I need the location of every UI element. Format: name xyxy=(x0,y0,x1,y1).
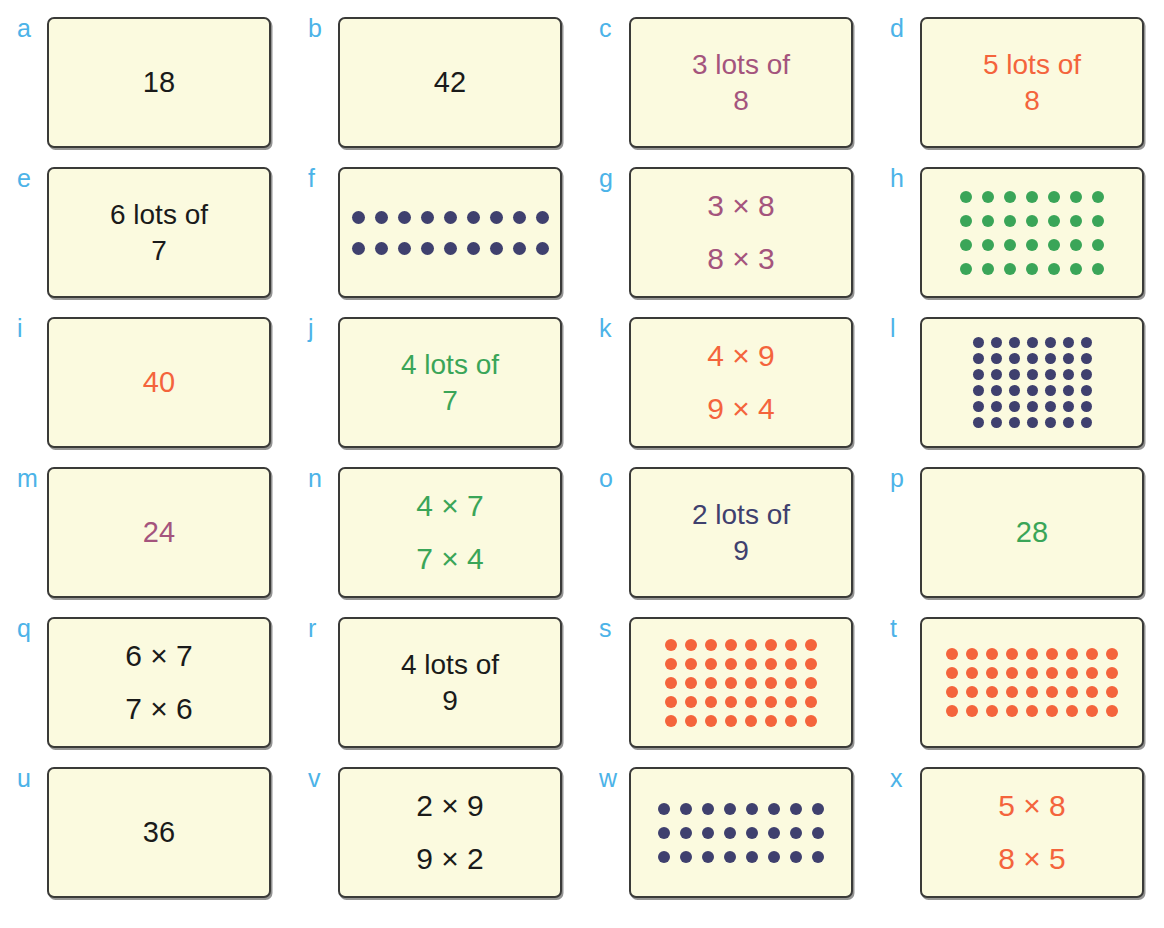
dot-icon xyxy=(1066,648,1078,660)
dot-icon xyxy=(1006,686,1018,698)
card-text-k: 4 × 9 9 × 4 xyxy=(707,330,775,435)
dot-icon xyxy=(1066,667,1078,679)
dot-icon xyxy=(1026,263,1038,275)
card-f[interactable] xyxy=(338,167,562,298)
dot-icon xyxy=(765,677,777,689)
dot-icon xyxy=(1026,648,1038,660)
card-s[interactable] xyxy=(629,617,853,748)
card-l[interactable] xyxy=(920,317,1144,448)
dot-icon xyxy=(960,239,972,251)
dot-icon xyxy=(785,658,797,670)
worksheet-sheet: a18b42c3 lots of 8d5 lots of 8e6 lots of… xyxy=(0,0,1164,928)
dot-icon xyxy=(745,639,757,651)
card-c[interactable]: 3 lots of 8 xyxy=(629,17,853,148)
card-text-g: 3 × 8 8 × 3 xyxy=(707,180,775,285)
card-e[interactable]: 6 lots of 7 xyxy=(47,167,271,298)
dot-icon xyxy=(768,851,780,863)
dot-icon xyxy=(1070,191,1082,203)
dot-icon xyxy=(785,639,797,651)
card-h[interactable] xyxy=(920,167,1144,298)
card-o[interactable]: 2 lots of 9 xyxy=(629,467,853,598)
card-cell-i: i40 xyxy=(0,310,291,460)
card-t[interactable] xyxy=(920,617,1144,748)
card-text-i: 40 xyxy=(143,364,175,401)
dot-icon xyxy=(805,696,817,708)
dot-row xyxy=(653,851,829,863)
dot-icon xyxy=(1092,215,1104,227)
card-a[interactable]: 18 xyxy=(47,17,271,148)
card-b[interactable]: 42 xyxy=(338,17,562,148)
card-v[interactable]: 2 × 9 9 × 2 xyxy=(338,767,562,898)
dot-icon xyxy=(1046,648,1058,660)
dot-icon xyxy=(946,705,958,717)
dot-icon xyxy=(702,827,714,839)
card-g[interactable]: 3 × 8 8 × 3 xyxy=(629,167,853,298)
dot-icon xyxy=(1026,191,1038,203)
card-q[interactable]: 6 × 7 7 × 6 xyxy=(47,617,271,748)
dot-icon xyxy=(1027,369,1038,380)
card-w[interactable] xyxy=(629,767,853,898)
dot-icon xyxy=(1092,191,1104,203)
card-i[interactable]: 40 xyxy=(47,317,271,448)
card-text-p: 28 xyxy=(1016,514,1048,551)
dot-icon xyxy=(946,667,958,679)
dot-icon xyxy=(986,705,998,717)
dot-row xyxy=(347,242,554,255)
dot-icon xyxy=(765,696,777,708)
dot-icon xyxy=(665,715,677,727)
dot-array-s xyxy=(661,635,821,730)
dot-row xyxy=(955,191,1109,203)
card-m[interactable]: 24 xyxy=(47,467,271,598)
dot-icon xyxy=(1106,705,1118,717)
dot-icon xyxy=(1004,191,1016,203)
card-d[interactable]: 5 lots of 8 xyxy=(920,17,1144,148)
dot-icon xyxy=(1081,353,1092,364)
dot-icon xyxy=(1063,337,1074,348)
dot-icon xyxy=(685,658,697,670)
dot-icon xyxy=(685,639,697,651)
dot-icon xyxy=(805,677,817,689)
dot-icon xyxy=(724,827,736,839)
card-u[interactable]: 36 xyxy=(47,767,271,898)
card-x[interactable]: 5 × 8 8 × 5 xyxy=(920,767,1144,898)
card-label-c: c xyxy=(599,16,612,41)
dot-icon xyxy=(421,211,434,224)
card-label-m: m xyxy=(17,466,38,491)
dot-icon xyxy=(1092,263,1104,275)
card-r[interactable]: 4 lots of 9 xyxy=(338,617,562,748)
dot-icon xyxy=(1066,705,1078,717)
card-k[interactable]: 4 × 9 9 × 4 xyxy=(629,317,853,448)
dot-icon xyxy=(790,827,802,839)
dot-icon xyxy=(960,191,972,203)
card-n[interactable]: 4 × 7 7 × 4 xyxy=(338,467,562,598)
dot-icon xyxy=(724,851,736,863)
card-label-e: e xyxy=(17,166,31,191)
dot-row xyxy=(969,385,1095,396)
card-cell-d: d5 lots of 8 xyxy=(873,10,1164,160)
dot-icon xyxy=(1045,385,1056,396)
dot-icon xyxy=(745,677,757,689)
dot-icon xyxy=(680,803,692,815)
card-label-s: s xyxy=(599,616,612,641)
dot-row xyxy=(942,705,1122,717)
dot-row xyxy=(661,658,821,670)
dot-array-h xyxy=(955,185,1109,281)
dot-icon xyxy=(768,803,780,815)
dot-icon xyxy=(973,369,984,380)
dot-icon xyxy=(1086,667,1098,679)
dot-row xyxy=(661,715,821,727)
card-j[interactable]: 4 lots of 7 xyxy=(338,317,562,448)
dot-icon xyxy=(973,353,984,364)
card-cell-j: j4 lots of 7 xyxy=(291,310,582,460)
card-label-f: f xyxy=(308,166,315,191)
dot-icon xyxy=(746,851,758,863)
dot-icon xyxy=(1009,369,1020,380)
dot-icon xyxy=(1009,337,1020,348)
card-p[interactable]: 28 xyxy=(920,467,1144,598)
dot-icon xyxy=(1092,239,1104,251)
dot-row xyxy=(942,667,1122,679)
dot-icon xyxy=(745,658,757,670)
dot-icon xyxy=(1066,686,1078,698)
card-cell-s: s xyxy=(582,610,873,760)
dot-row xyxy=(942,648,1122,660)
